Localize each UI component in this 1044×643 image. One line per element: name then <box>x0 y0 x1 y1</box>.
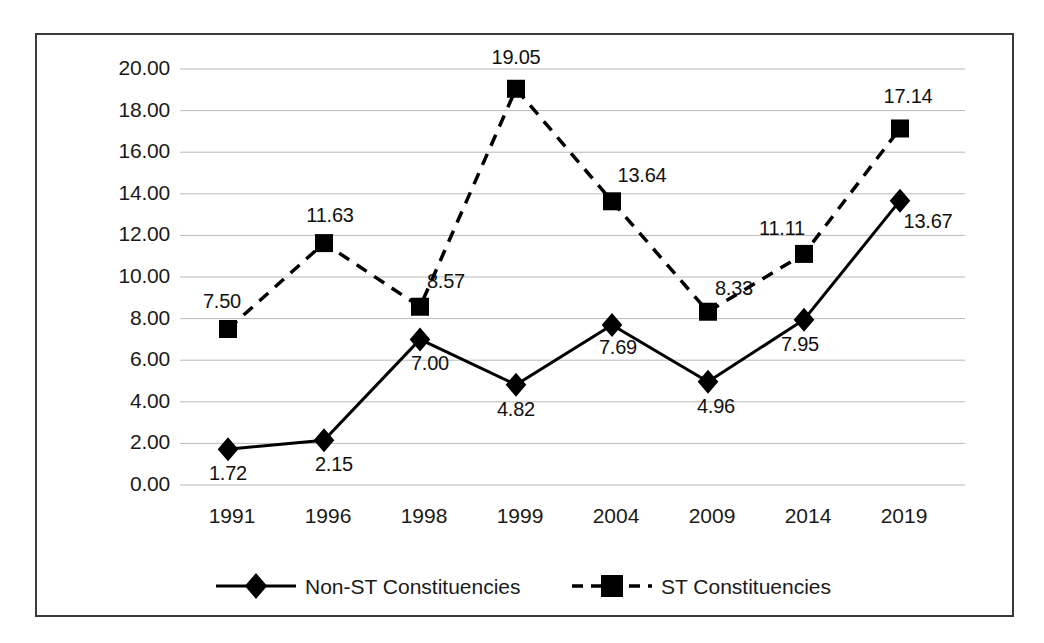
y-axis-tick-label: 12.00 <box>80 222 170 246</box>
y-axis-tick-label: 2.00 <box>80 430 170 454</box>
series-lines-group <box>228 89 900 449</box>
data-point-label: 8.57 <box>401 270 491 293</box>
data-point-marker <box>218 437 239 461</box>
y-axis-tick-label: 8.00 <box>80 306 170 330</box>
data-point-marker <box>698 370 719 394</box>
y-axis-tick-label: 18.00 <box>80 98 170 122</box>
data-point-marker <box>507 80 525 98</box>
y-axis-tick-label: 14.00 <box>80 181 170 205</box>
x-axis-tick-label: 2014 <box>758 504 858 528</box>
x-axis-tick-label: 1998 <box>374 504 474 528</box>
gridlines-group <box>180 69 965 485</box>
data-point-marker <box>411 298 429 316</box>
x-axis-tick-label: 1991 <box>182 504 282 528</box>
data-point-label: 19.05 <box>471 46 561 69</box>
x-axis-tick-label: 2009 <box>662 504 762 528</box>
data-point-marker <box>891 119 909 137</box>
data-point-label: 13.64 <box>597 164 687 187</box>
x-axis-tick-label: 1996 <box>278 504 378 528</box>
data-point-marker <box>602 313 623 337</box>
x-axis-tick-label: 1999 <box>470 504 570 528</box>
y-axis-tick-label: 16.00 <box>80 139 170 163</box>
x-axis-tick-label: 2019 <box>854 504 954 528</box>
data-point-label: 1.72 <box>183 462 273 485</box>
data-point-label: 13.67 <box>883 210 973 233</box>
data-point-label: 7.00 <box>385 352 475 375</box>
y-axis-tick-label: 20.00 <box>80 56 170 80</box>
data-point-marker <box>506 373 527 397</box>
y-axis-tick-label: 6.00 <box>80 347 170 371</box>
y-axis-tick-label: 10.00 <box>80 264 170 288</box>
y-axis-tick-label: 0.00 <box>80 472 170 496</box>
data-point-label: 11.63 <box>285 204 375 227</box>
x-axis-tick-label: 2004 <box>566 504 666 528</box>
legend-diamond-marker <box>245 573 267 599</box>
data-point-label: 17.14 <box>863 85 953 108</box>
legend-label-st: ST Constituencies <box>661 575 831 599</box>
data-point-marker <box>219 320 237 338</box>
series-markers-group <box>218 80 911 461</box>
data-point-label: 7.69 <box>573 336 663 359</box>
data-point-label: 7.95 <box>755 333 845 356</box>
legend-square-marker <box>601 575 623 597</box>
legend-label-non-st: Non-ST Constituencies <box>305 575 521 599</box>
data-point-marker <box>603 192 621 210</box>
data-point-label: 4.96 <box>671 395 761 418</box>
data-point-marker <box>795 245 813 263</box>
data-point-label: 7.50 <box>177 290 267 313</box>
data-point-label: 4.82 <box>471 398 561 421</box>
data-point-label: 2.15 <box>289 453 379 476</box>
data-point-marker <box>699 303 717 321</box>
y-axis-tick-label: 4.00 <box>80 389 170 413</box>
data-point-marker <box>315 234 333 252</box>
data-point-label: 11.11 <box>737 217 827 240</box>
data-point-label: 8.33 <box>689 277 779 300</box>
